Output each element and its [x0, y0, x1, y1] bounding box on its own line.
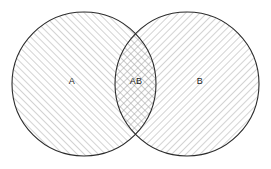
venn-diagram-canvas: A AB B: [0, 0, 271, 169]
set-a-label: A: [69, 76, 75, 86]
intersection-ab-label: AB: [130, 76, 143, 86]
venn-diagram-svg: A AB B: [0, 0, 271, 169]
set-b-label: B: [197, 76, 203, 86]
